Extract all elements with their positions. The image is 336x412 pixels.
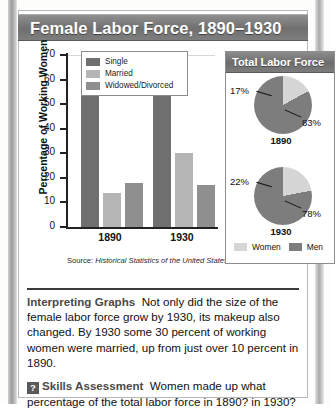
- y-tick: [60, 177, 67, 179]
- bar-chart-legend: Single Married Widowed/Divorced: [81, 51, 188, 96]
- y-tick: [60, 201, 67, 203]
- skills-assessment-paragraph: ?Skills Assessment Women made up what pe…: [27, 378, 301, 409]
- skills-assessment-heading: Skills Assessment: [42, 379, 143, 392]
- pie-chart-1930: 22% 78% 1930: [226, 164, 334, 249]
- pie-1930-men-pct: 78%: [302, 208, 321, 219]
- legend-label-married: Married: [105, 69, 133, 78]
- y-tick: [60, 152, 67, 154]
- bar-1930-married: [175, 153, 193, 227]
- bar-1930-single: [153, 94, 171, 227]
- pie-legend-label-women: Women: [252, 242, 281, 252]
- caption-text-block: Interpreting Graphs Not only did the siz…: [27, 294, 301, 412]
- legend-swatch-married: [86, 70, 100, 78]
- y-tick-label: 50: [25, 97, 55, 108]
- x-axis-label-1890: 1890: [80, 231, 140, 243]
- source-lead: Source:: [67, 256, 95, 265]
- total-labor-force-panel: Total Labor Force 17% 83% 1890 22% 78% 1…: [225, 51, 335, 264]
- pie-1890-women-pct: 17%: [230, 85, 249, 96]
- section-divider: [27, 288, 299, 290]
- source-note: Source: Historical Statistics of the Uni…: [67, 256, 228, 265]
- bar-1890-married: [103, 193, 121, 227]
- source-text: Historical Statistics of the United Stat…: [95, 256, 228, 265]
- x-axis-label-1930: 1930: [152, 231, 212, 243]
- y-tick: [60, 79, 67, 81]
- y-tick: [60, 103, 67, 105]
- bar-chart: Percentage of Working Women: [25, 45, 221, 255]
- legend-swatch-single: [86, 58, 100, 66]
- legend-swatch-widowed-divorced: [86, 82, 100, 90]
- legend-label-single: Single: [105, 57, 128, 66]
- pie-1930-year: 1930: [226, 226, 336, 237]
- pie-1930-women-pct: 22%: [230, 176, 249, 187]
- pie-panel-title: Total Labor Force: [226, 56, 324, 68]
- bar-1930-widowed: [197, 185, 215, 227]
- question-mark-icon: ?: [27, 382, 39, 394]
- legend-label-widowed-divorced: Widowed/Divorced: [105, 81, 173, 90]
- chart-zone: Percentage of Working Women: [19, 41, 307, 278]
- page-title: Female Labor Force, 1890–1930: [18, 15, 308, 42]
- pie-1890-men-pct: 83%: [302, 117, 321, 128]
- pie-chart-1890: 17% 83% 1890: [226, 73, 334, 158]
- interpreting-graphs-paragraph: Interpreting Graphs Not only did the siz…: [27, 294, 301, 370]
- pie-legend-label-men: Men: [307, 242, 323, 252]
- y-tick-label: 10: [25, 195, 55, 206]
- y-tick: [60, 226, 67, 228]
- pie-panel-title-bar: Total Labor Force: [226, 52, 334, 73]
- y-tick-label: 60: [25, 73, 55, 84]
- x-axis-line: [66, 227, 218, 229]
- page-gutter-left: [8, 0, 17, 404]
- interpreting-graphs-heading: Interpreting Graphs: [27, 295, 135, 308]
- y-tick: [60, 128, 67, 130]
- bar-1890-widowed: [125, 183, 143, 227]
- y-tick-label: 0: [25, 220, 55, 231]
- pie-1890-year: 1890: [226, 135, 336, 146]
- legend-item-married: Married: [86, 68, 183, 79]
- y-tick: [60, 54, 67, 56]
- y-tick-label: 70: [25, 48, 55, 59]
- pie-legend-swatch-women: [234, 243, 247, 251]
- y-tick-label: 30: [25, 146, 55, 157]
- pie-legend: Women Men: [226, 242, 334, 252]
- figure-title-banner: Female Labor Force, 1890–1930: [18, 14, 308, 41]
- legend-item-single: Single: [86, 56, 183, 67]
- pie-legend-swatch-men: [289, 243, 302, 251]
- y-tick-label: 20: [25, 171, 55, 182]
- legend-item-widowed-divorced: Widowed/Divorced: [86, 80, 183, 91]
- y-tick-label: 40: [25, 122, 55, 133]
